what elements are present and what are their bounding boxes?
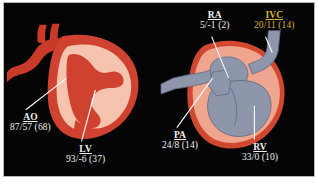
label-ra: RA 5/-1 (2) — [200, 11, 230, 30]
label-rv: RV 33/0 (10) — [242, 143, 278, 162]
label-ivc-values: 20/11 (14) — [254, 21, 295, 31]
image-plate: AO 87/57 (68) LV 93/-6 (37) RA 5/-1 (2) … — [3, 2, 315, 177]
label-lv-values: 93/-6 (37) — [66, 155, 105, 165]
label-ivc: IVC 20/11 (14) — [254, 11, 295, 30]
label-pa: PA 24/8 (14) — [162, 131, 198, 150]
cardiac-pressure-figure: AO 87/57 (68) LV 93/-6 (37) RA 5/-1 (2) … — [0, 0, 318, 188]
label-ao: AO 87/57 (68) — [10, 113, 51, 132]
label-rv-values: 33/0 (10) — [242, 153, 278, 163]
label-ao-values: 87/57 (68) — [10, 123, 51, 133]
label-pa-values: 24/8 (14) — [162, 141, 198, 151]
aortic-branch-left-shape — [37, 25, 46, 44]
label-ra-values: 5/-1 (2) — [200, 21, 230, 31]
label-lv: LV 93/-6 (37) — [66, 145, 105, 164]
descending-aorta-shape — [7, 66, 18, 82]
